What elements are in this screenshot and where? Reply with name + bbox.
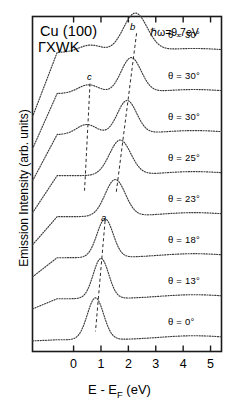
sample-label-line1: Cu (100): [40, 24, 97, 39]
axis-ticks: [74, 17, 211, 352]
peak-label-c: c: [87, 72, 92, 82]
guide-line-b: [116, 33, 137, 194]
angle-label-theta-23: θ = 23°: [168, 194, 200, 204]
guide-line-a: [96, 221, 106, 332]
angle-label-theta-18: θ = 18°: [168, 235, 200, 245]
peak-label-a: a: [101, 213, 106, 223]
x-tick-label-4: 4: [173, 358, 193, 371]
x-tick-label-2: 2: [118, 358, 138, 371]
x-tick-label-0: 0: [64, 358, 84, 371]
y-axis-label: Emission Intensity (arb. units): [18, 88, 30, 288]
spectrum-curve-theta-18: [33, 219, 222, 277]
x-tick-label-5: 5: [201, 358, 221, 371]
x-tick-label-1: 1: [91, 358, 111, 371]
peak-label-b: b: [130, 22, 135, 32]
plot-frame: [33, 17, 222, 352]
sample-label-line2: ΓXWK: [38, 40, 79, 55]
x-axis-label-main: E - E: [88, 382, 117, 397]
plot-canvas: [0, 0, 239, 407]
angle-label-theta-25: θ = 25°: [168, 153, 200, 163]
x-axis-label: E - EF (eV): [0, 383, 239, 400]
angle-label-theta-0: θ = 0°: [168, 317, 194, 327]
angle-label-theta-13: θ = 13°: [168, 276, 200, 286]
x-tick-label-3: 3: [146, 358, 166, 371]
angle-label-theta-30-c: θ = 30°: [168, 112, 200, 122]
angle-label-theta-30-b: θ = 30°: [168, 71, 200, 81]
axis-frame: [33, 17, 222, 352]
x-axis-label-unit: (eV): [123, 382, 151, 397]
spectra-curves: [33, 13, 222, 341]
photoemission-figure: Cu (100) ΓXWK ℏω=9.7eV b c a θ = 30°θ = …: [0, 0, 239, 407]
angle-label-theta-30-a: θ = 30°: [168, 30, 200, 40]
